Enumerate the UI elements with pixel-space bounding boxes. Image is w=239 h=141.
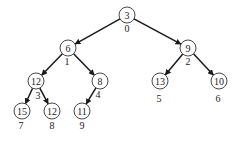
edge-2-to-5: [165, 54, 183, 75]
node-value: 9: [186, 43, 191, 54]
tree-node-3: 123: [28, 73, 44, 101]
edge-1-to-4: [74, 54, 95, 76]
node-index-label: 9: [80, 120, 85, 131]
node-index-label: 7: [19, 120, 24, 131]
tree-node-0: 30: [119, 7, 135, 34]
node-index-label: 5: [157, 93, 162, 104]
node-value: 13: [155, 76, 165, 87]
node-index-label: 2: [186, 56, 191, 67]
tree-node-9: 119: [74, 103, 90, 131]
edge-0-to-2: [134, 19, 181, 44]
node-value: 12: [31, 76, 41, 87]
edge-2-to-6: [194, 54, 214, 75]
edge-0-to-1: [75, 19, 120, 44]
tree-node-7: 157: [14, 103, 30, 131]
edge-3-to-8: [40, 88, 48, 104]
nodes-layer: 30619212384135106157128119: [14, 7, 227, 131]
node-index-label: 8: [50, 120, 55, 131]
node-index-label: 4: [96, 89, 101, 100]
edge-4-to-9: [86, 88, 96, 104]
node-value: 15: [17, 106, 27, 117]
tree-node-1: 61: [60, 40, 76, 67]
edge-3-to-7: [25, 88, 32, 104]
tree-node-4: 84: [92, 73, 108, 100]
node-value: 11: [77, 106, 87, 117]
node-value: 12: [47, 106, 57, 117]
tree-node-8: 128: [44, 103, 60, 131]
node-index-label: 1: [65, 56, 70, 67]
node-value: 10: [214, 76, 224, 87]
node-value: 6: [66, 43, 71, 54]
tree-node-2: 92: [180, 40, 196, 67]
tree-node-6: 106: [211, 73, 227, 104]
node-index-label: 3: [36, 90, 41, 101]
node-value: 3: [125, 10, 130, 21]
edge-1-to-3: [42, 54, 63, 76]
node-index-label: 6: [216, 93, 221, 104]
tree-node-5: 135: [152, 73, 168, 104]
node-value: 8: [98, 76, 103, 87]
heap-tree-diagram: 30619212384135106157128119: [0, 0, 239, 141]
node-index-label: 0: [125, 23, 130, 34]
